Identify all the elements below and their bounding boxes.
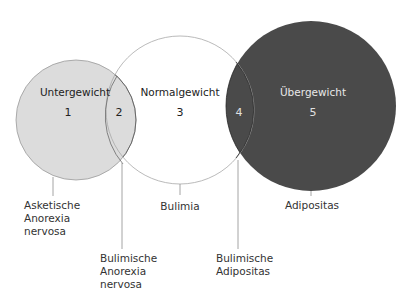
caption-bulimia: Bulimia (160, 200, 199, 212)
svg-text:Anorexia: Anorexia (24, 212, 70, 224)
caption-adipositas: Adipositas (285, 199, 339, 211)
overlap-under-normal-number: 2 (116, 106, 123, 119)
svg-text:Bulimische: Bulimische (100, 252, 157, 264)
svg-text:nervosa: nervosa (24, 225, 66, 237)
underweight-circle (16, 60, 136, 180)
overweight-number: 5 (310, 106, 317, 119)
svg-text:Bulimische: Bulimische (216, 252, 273, 264)
overweight-label: Übergewicht (280, 86, 346, 98)
svg-text:Bulimia: Bulimia (160, 200, 199, 212)
normal-weight-label: Normalgewicht (140, 86, 219, 98)
svg-text:Adipositas: Adipositas (216, 265, 270, 277)
svg-text:Asketische: Asketische (24, 199, 80, 211)
eating-disorder-venn-diagram: Untergewicht 1 Normalgewicht 3 Übergewic… (0, 0, 411, 304)
underweight-label: Untergewicht (40, 86, 110, 98)
underweight-number: 1 (65, 106, 72, 119)
svg-text:nervosa: nervosa (100, 278, 142, 290)
svg-text:Adipositas: Adipositas (285, 199, 339, 211)
caption-asketische-anorexia-nervosa: Asketische Anorexia nervosa (24, 199, 80, 237)
normal-weight-number: 3 (177, 106, 184, 119)
overlap-normal-over-number: 4 (236, 106, 243, 119)
svg-text:Anorexia: Anorexia (100, 265, 146, 277)
caption-bulimische-anorexia-nervosa: Bulimische Anorexia nervosa (100, 252, 157, 290)
caption-bulimische-adipositas: Bulimische Adipositas (216, 252, 273, 277)
